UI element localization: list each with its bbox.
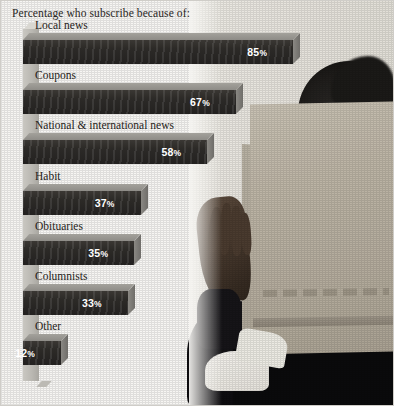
bar-top-face [23,83,242,90]
bar-front-face [23,241,134,265]
bar-category-label: Coupons [35,69,76,81]
bar-value-number: 58 [161,146,173,158]
bar-value-number: 35 [88,247,100,259]
bar-value-label: 67% [190,90,210,114]
bar-5: 35% [23,234,141,265]
bar-top-face [23,133,214,140]
bar-value-number: 33 [82,297,94,309]
bar-category-label: Other [35,320,61,332]
bar-4: 37% [23,184,148,215]
percent-sign: % [174,148,182,158]
percent-sign: % [94,299,102,309]
bar-top-face [23,33,300,40]
bar-chart: Percentage who subscribe because of: Loc… [1,1,393,405]
bar-right-face [134,234,141,265]
bar-category-label: Columnists [35,270,87,282]
bar-category-label: National & international news [35,119,174,131]
axis-wall-base [36,381,51,387]
bar-value-number: 37 [95,197,107,209]
percent-sign: % [27,349,35,359]
bar-right-face [61,334,68,365]
bar-value-label: 35% [88,241,108,265]
percent-sign: % [100,249,108,259]
bar-top-face [23,284,134,291]
bar-value-label: 33% [82,291,102,315]
percent-sign: % [202,98,210,108]
bar-value-label: 58% [161,140,181,164]
percent-sign: % [107,199,115,209]
bar-right-face [128,284,135,315]
bar-6: 33% [23,284,135,315]
bar-value-number: 85 [247,46,259,58]
bar-value-label: 12% [15,341,35,365]
bar-2: 67% [23,83,243,114]
bar-3: 58% [23,133,214,164]
bar-top-face [23,234,141,241]
bar-front-face [23,191,141,215]
bar-front-face [23,291,128,315]
bar-value-number: 12 [15,347,27,359]
bar-right-face [236,83,243,114]
bar-value-number: 67 [190,96,202,108]
bar-value-label: 37% [95,191,115,215]
bar-top-face [23,184,147,191]
bar-category-label: Local news [35,19,88,31]
bar-category-label: Habit [35,170,61,182]
chart-figure: Percentage who subscribe because of: Loc… [0,0,394,406]
percent-sign: % [259,48,267,58]
chart-title: Percentage who subscribe because of: [12,7,190,19]
bar-right-face [293,33,300,64]
bar-1: 85% [23,33,300,64]
bar-right-face [207,133,214,164]
bar-category-label: Obituaries [35,220,83,232]
bar-value-label: 85% [247,40,267,64]
bar-7: 12% [23,334,68,365]
